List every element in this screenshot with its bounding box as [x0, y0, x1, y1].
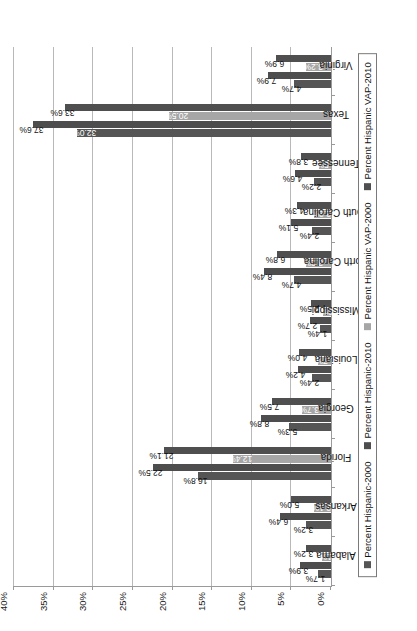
x-axis-category-label: Arkansas — [315, 502, 357, 513]
bar-fill — [164, 447, 331, 455]
bar[interactable]: 6.4% — [280, 513, 331, 521]
bar[interactable]: 5.1% — [291, 219, 331, 227]
bar-group: 2.4%4.2%1.7%4.0%Louisiana — [14, 341, 331, 390]
bar-value-label: 22.5% — [139, 468, 163, 477]
bar-value-label: 3.2% — [294, 525, 313, 534]
bar[interactable]: 3.2% — [306, 522, 331, 530]
bar[interactable]: 20.5% — [169, 113, 331, 121]
y-axis-tick-mark — [211, 586, 212, 590]
bar-value-label: 4.2% — [286, 370, 305, 379]
bar[interactable]: 2.4% — [312, 375, 331, 383]
bar-value-label: 6.8% — [265, 255, 284, 264]
bar[interactable]: 5.3% — [289, 424, 331, 432]
x-axis-category-label: Florida — [321, 453, 352, 464]
y-axis-tick-mark — [132, 586, 133, 590]
bar-fill — [65, 104, 331, 112]
bar[interactable]: 4.6% — [295, 170, 331, 178]
bar-fill — [261, 415, 331, 423]
bar-value-label: 1.4% — [308, 329, 327, 338]
bar-group: 5.3%8.8%3.7%7.5%Georgia — [14, 390, 331, 439]
bar-group: 16.8%22.5%12.4%21.1%Florida — [14, 439, 331, 488]
bar-value-label: 4.3% — [285, 206, 304, 215]
chart-figure: 0%5%10%15%20%25%30%35%40% 1.7%3.9%1.1%3.… — [0, 0, 417, 631]
bar[interactable]: 37.6% — [33, 121, 331, 129]
bar[interactable]: 1.7% — [318, 571, 331, 579]
bar-group: 2.2%4.6%1.5%3.8%Tennessee — [14, 145, 331, 194]
x-axis-tick-mark — [331, 340, 335, 341]
bar-groups: 1.7%3.9%1.1%3.2%Alabama3.2%6.4%2.1%5.0%A… — [14, 47, 331, 586]
bar-value-label: 6.4% — [269, 517, 288, 526]
legend-item[interactable]: Percent Hispanic-2010 — [362, 342, 373, 449]
bar[interactable]: 22.5% — [153, 464, 331, 472]
bar[interactable]: 8.8% — [261, 415, 331, 423]
bar-value-label: 33.6% — [51, 108, 75, 117]
y-axis-tick-mark — [251, 586, 252, 590]
bar-value-label: 3.8% — [289, 157, 308, 166]
bar-value-label: 8.4% — [253, 272, 272, 281]
bar-value-label: 4.7% — [282, 84, 301, 93]
plot-area: 0%5%10%15%20%25%30%35%40% 1.7%3.9%1.1%3.… — [14, 47, 332, 587]
bar-value-label: 16.8% — [184, 476, 208, 485]
bar[interactable]: 2.2% — [314, 179, 331, 187]
bar-value-label: 7.9% — [257, 76, 276, 85]
bar-group: 3.2%6.4%2.1%5.0%Arkansas — [14, 488, 331, 537]
bar-value-label: 20.5% — [164, 112, 188, 121]
bar-value-label: 4.0% — [288, 353, 307, 362]
y-axis-tick-mark — [172, 586, 173, 590]
bar[interactable]: 3.9% — [300, 562, 331, 570]
bar-value-label: 3.7% — [299, 406, 318, 415]
bar-value-label: 4.7% — [282, 280, 301, 289]
bar[interactable]: 1.4% — [320, 326, 331, 334]
bar[interactable]: 33.6% — [65, 104, 331, 112]
bar[interactable]: 4.7% — [294, 81, 331, 89]
y-axis-tick-mark — [53, 586, 54, 590]
x-axis-category-label: Tennessee — [312, 159, 360, 170]
bar[interactable]: 8.4% — [264, 268, 331, 276]
bar[interactable]: 2.4% — [312, 228, 331, 236]
legend-item[interactable]: Percent Hispanic VAP-2000 — [362, 202, 373, 330]
bar[interactable]: 32.0% — [77, 130, 331, 138]
legend-swatch-icon — [364, 323, 371, 330]
bar-group: 32.0%37.6%20.5%33.6%Texas — [14, 96, 331, 145]
bar[interactable]: 4.2% — [298, 366, 331, 374]
x-axis-category-label: Georgia — [318, 404, 354, 415]
bar-value-label: 3.2% — [294, 549, 313, 558]
bar-group: 1.4%2.7%1.0%2.5%Mississippi — [14, 292, 331, 341]
bar-value-label: 1.7% — [306, 574, 325, 583]
bar-value-label: 2.2% — [302, 182, 321, 191]
bar-value-label: 7.5% — [260, 402, 279, 411]
bar[interactable]: 21.1% — [164, 447, 331, 455]
bar-fill — [198, 473, 331, 481]
y-axis-tick-label: 15% — [196, 592, 207, 611]
legend-item[interactable]: Percent Hispanic VAP-2010 — [362, 62, 373, 190]
y-axis-tick-label: 5% — [275, 592, 286, 606]
x-axis-tick-mark — [331, 95, 335, 96]
bar-fill — [268, 72, 331, 80]
bar-value-label: 2.7% — [298, 321, 317, 330]
bar[interactable]: 4.7% — [294, 277, 331, 285]
bar[interactable]: 12.4% — [233, 456, 331, 464]
y-axis-tick-label: 0% — [315, 592, 326, 606]
x-axis-tick-mark — [331, 389, 335, 390]
x-axis-tick-mark — [331, 536, 335, 537]
bar-value-label: 5.0% — [280, 500, 299, 509]
bar-fill — [33, 121, 331, 129]
x-axis-category-label: Mississippi — [312, 306, 360, 317]
chart-legend: Percent Hispanic-2000Percent Hispanic-20… — [358, 53, 377, 577]
y-axis-tick-mark — [290, 586, 291, 590]
bar-value-label: 21.1% — [150, 451, 174, 460]
bar-group: 4.7%8.4%3.2%6.8%North Carolina — [14, 243, 331, 292]
x-axis-tick-mark — [331, 291, 335, 292]
bar-value-label: 6.9% — [265, 59, 284, 68]
bar-value-label: 3.9% — [288, 566, 307, 575]
bar[interactable]: 2.7% — [310, 317, 331, 325]
bar[interactable]: 16.8% — [198, 473, 331, 481]
bar-value-label: 2.4% — [300, 378, 319, 387]
bar[interactable]: 7.9% — [268, 72, 331, 80]
legend-item[interactable]: Percent Hispanic-2000 — [362, 462, 373, 569]
x-axis-category-label: Virginia — [319, 61, 352, 72]
x-axis-tick-mark — [331, 144, 335, 145]
y-axis-tick-mark — [92, 586, 93, 590]
bar-value-label: 5.1% — [279, 223, 298, 232]
x-axis-tick-mark — [331, 585, 335, 586]
